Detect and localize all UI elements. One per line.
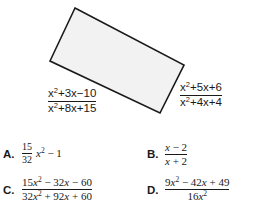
rectangle-shape	[0, 0, 265, 125]
option-b-fraction[interactable]: x − 2 x + 2	[165, 142, 187, 167]
option-d-numerator: 9x2 − 42x + 49	[165, 177, 229, 188]
rectangle-figure: x2+3x−10 x2+8x+15 x2+5x+6 x2+4x+4	[0, 0, 265, 125]
option-b-numerator: x − 2	[165, 142, 187, 153]
right-side-numerator: x2+5x+6	[180, 82, 222, 94]
option-a-coef-denominator: 32	[22, 155, 32, 165]
option-c-label[interactable]: C.	[3, 185, 15, 197]
right-side-denominator: x2+4x+4	[180, 97, 222, 109]
option-a-coefficient[interactable]: 15 32	[22, 142, 32, 165]
option-c-fraction[interactable]: 15x2 − 32x − 60 32x2 + 92x + 60	[22, 177, 92, 202]
option-d-denominator: 16x2	[187, 191, 207, 202]
option-a-label[interactable]: A.	[3, 149, 15, 161]
option-b-label[interactable]: B.	[147, 149, 159, 161]
option-d-label[interactable]: D.	[147, 185, 159, 197]
left-side-numerator: x2+3x−10	[48, 88, 96, 100]
option-d-fraction[interactable]: 9x2 − 42x + 49 16x2	[165, 177, 229, 202]
option-c-denominator: 32x2 + 92x + 60	[22, 191, 92, 202]
option-a-expression[interactable]: x2 − 1	[36, 148, 62, 159]
left-side-length-fraction: x2+3x−10 x2+8x+15	[48, 88, 96, 114]
option-a-coef-numerator: 15	[22, 142, 32, 152]
right-side-length-fraction: x2+5x+6 x2+4x+4	[180, 82, 222, 108]
option-c-numerator: 15x2 − 32x − 60	[22, 177, 92, 188]
left-side-denominator: x2+8x+15	[48, 103, 96, 115]
option-b-denominator: x + 2	[165, 156, 187, 167]
